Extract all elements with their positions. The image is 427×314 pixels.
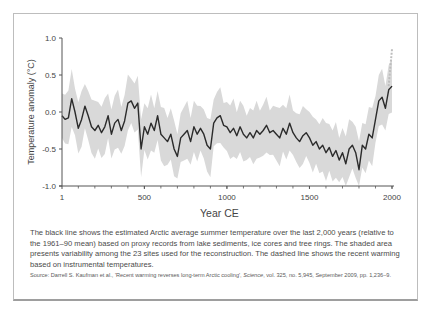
x-tick-label: 1500 bbox=[301, 193, 319, 202]
figure-caption: The black line shows the estimated Arcti… bbox=[30, 228, 402, 270]
shaded-area bbox=[62, 59, 392, 186]
y-tick-label: 1.0 bbox=[45, 34, 57, 43]
x-tick-label: 1 bbox=[60, 193, 65, 202]
y-tick-label: 0.5 bbox=[45, 71, 57, 80]
y-tick-label: -1.0 bbox=[42, 182, 56, 191]
x-tick-label: 2000 bbox=[383, 193, 401, 202]
y-axis-title: Temperature anomaly (°C) bbox=[26, 59, 36, 165]
y-tick-label: -0.5 bbox=[42, 145, 56, 154]
figure-source: Source: Darrell S. Kaufman et al., 'Rece… bbox=[30, 271, 402, 279]
x-tick-label: 1000 bbox=[218, 193, 236, 202]
y-tick-label: 0.0 bbox=[45, 108, 57, 117]
x-axis-title: Year CE bbox=[200, 207, 239, 219]
variability-band bbox=[62, 59, 392, 186]
x-tick-label: 500 bbox=[138, 193, 152, 202]
